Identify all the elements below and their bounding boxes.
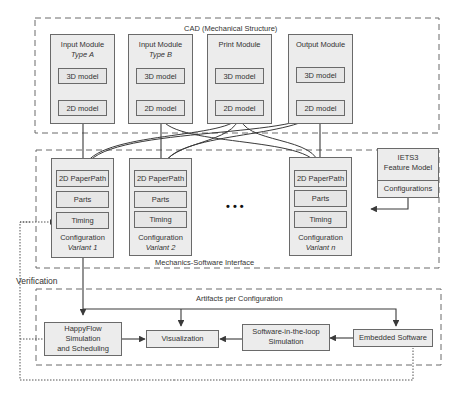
module-name: Input Module — [50, 40, 115, 50]
parts-box: Parts — [294, 190, 347, 207]
paperpath-box: 2D PaperPath — [56, 170, 109, 187]
3d-model-box: 3D model — [215, 68, 264, 84]
configuration-label: Configuration — [129, 233, 192, 243]
visualization-label: Visualization — [146, 334, 219, 344]
module-name: Print Module — [207, 40, 272, 50]
interface-group-title: Mechanics-Software Interface — [155, 258, 254, 267]
embedded-software-label: Embedded Software — [353, 333, 433, 343]
paperpath-box: 2D PaperPath — [134, 170, 187, 187]
2d-model-box: 2D model — [296, 100, 345, 116]
module-name: Input Module — [128, 40, 193, 50]
timing-box: Timing — [134, 211, 187, 228]
verification-label: Verification — [16, 276, 58, 286]
2d-model-box: 2D model — [215, 100, 264, 116]
sil-label-2: Simulation — [242, 337, 330, 347]
configuration-label: Configuration — [289, 233, 352, 243]
configuration-label: Configuration — [51, 233, 114, 243]
parts-box: Parts — [134, 191, 187, 208]
timing-box: Timing — [294, 211, 347, 228]
module-name: Output Module — [288, 40, 353, 50]
feature-model-divider — [377, 180, 439, 181]
timing-box: Timing — [56, 212, 109, 229]
ellipsis-more-variants: • • • — [226, 200, 244, 212]
happyflow-label-2: Simulation — [44, 334, 122, 344]
parts-box: Parts — [56, 191, 109, 208]
module-type: Type B — [128, 50, 193, 60]
configurations-label: Configurations — [377, 184, 439, 194]
2d-model-box: 2D model — [58, 100, 107, 116]
sil-label-1: Software-in-the-loop — [242, 327, 330, 337]
feature-model-title-1: IETS3 — [377, 153, 439, 163]
artifacts-group-title: Artifacts per Configuration — [196, 294, 283, 303]
happyflow-label-1: HappyFlow — [44, 324, 122, 334]
variant-label: Variant 1 — [51, 243, 114, 253]
variant-label: Variant 2 — [129, 243, 192, 253]
cad-group-title: CAD (Mechanical Structure) — [184, 24, 277, 33]
3d-model-box: 3D model — [296, 67, 345, 83]
happyflow-label-3: and Scheduling — [44, 344, 122, 354]
feature-model-title-2: Feature Model — [377, 163, 439, 173]
3d-model-box: 3D model — [58, 68, 107, 84]
variant-label: Variant n — [289, 243, 352, 253]
module-type: Type A — [50, 50, 115, 60]
2d-model-box: 2D model — [136, 100, 185, 116]
3d-model-box: 3D model — [136, 68, 185, 84]
paperpath-box: 2D PaperPath — [294, 170, 347, 187]
